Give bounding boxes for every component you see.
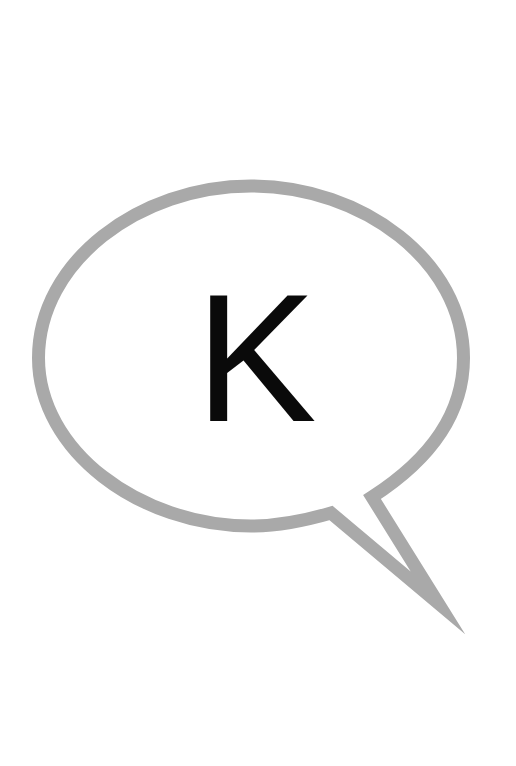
bubble-letter: K — [195, 256, 316, 460]
speech-bubble-graphic: K — [0, 0, 516, 766]
